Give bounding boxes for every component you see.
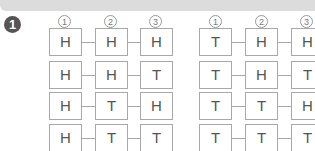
connector-line (82, 42, 95, 43)
column-header-2: 2 (104, 15, 117, 28)
outcome-cell: H (140, 92, 173, 120)
connector-line (82, 138, 95, 139)
outcome-cell: T (245, 124, 278, 151)
column-header-1: 1 (209, 15, 222, 28)
outcome-cell: T (291, 124, 315, 151)
outcome-cell: H (49, 28, 82, 56)
connector-line (82, 75, 95, 76)
connector-line (128, 75, 140, 76)
outcome-cell: T (140, 124, 173, 151)
connector-line (278, 138, 291, 139)
top-banner (0, 0, 315, 11)
column-header-3: 3 (149, 15, 162, 28)
outcome-cell: H (49, 92, 82, 120)
outcome-cell: T (199, 124, 232, 151)
outcome-cell: T (291, 61, 315, 89)
outcome-cell: H (49, 61, 82, 89)
outcome-cell: H (140, 28, 173, 56)
outcome-cell: T (95, 124, 128, 151)
connector-line (232, 75, 245, 76)
connector-line (128, 138, 140, 139)
outcome-cell: T (199, 28, 232, 56)
connector-line (232, 138, 245, 139)
outcome-cell: T (95, 92, 128, 120)
outcome-cell: H (291, 92, 315, 120)
connector-line (278, 75, 291, 76)
outcome-cell: T (140, 61, 173, 89)
outcome-cell: T (245, 92, 278, 120)
outcome-cell: H (245, 28, 278, 56)
outcome-cell: T (199, 92, 232, 120)
outcome-cell: H (291, 28, 315, 56)
connector-line (128, 106, 140, 107)
outcome-cell: H (49, 124, 82, 151)
column-header-2: 2 (255, 15, 268, 28)
connector-line (232, 106, 245, 107)
connector-line (278, 42, 291, 43)
outcome-cell: H (245, 61, 278, 89)
outcome-cell: T (199, 61, 232, 89)
connector-line (232, 42, 245, 43)
step-number-badge: 1 (4, 16, 21, 33)
connector-line (82, 106, 95, 107)
column-header-3: 3 (300, 15, 313, 28)
outcome-cell: H (95, 61, 128, 89)
connector-line (278, 106, 291, 107)
connector-line (128, 42, 140, 43)
outcome-cell: H (95, 28, 128, 56)
column-header-1: 1 (58, 15, 71, 28)
